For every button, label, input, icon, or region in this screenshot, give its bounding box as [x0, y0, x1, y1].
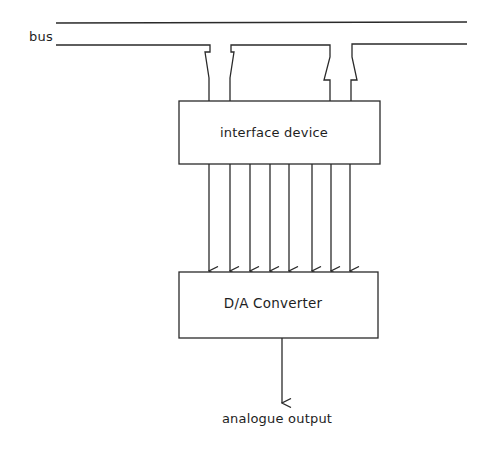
diagram-canvas: [0, 0, 491, 450]
bus-label: bus: [29, 30, 53, 43]
bus-line-bottom: [56, 44, 467, 102]
connector-1-left-edge: [56, 45, 210, 102]
interface-device-label: interface device: [173, 126, 375, 139]
bus-middle-segment: [230, 45, 330, 102]
connector-2-right-edge: [351, 44, 467, 102]
dac-label: D/A Converter: [173, 297, 373, 311]
data-bus-arrows: [209, 164, 350, 271]
analogue-output-label: analogue output: [182, 412, 372, 425]
dac-interface-diagram: bus interface device D/A Converter analo…: [0, 0, 491, 450]
bus-line-top: [56, 22, 467, 23]
